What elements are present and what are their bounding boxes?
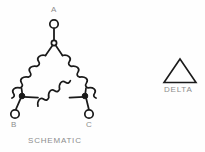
coil-bc-turns <box>38 81 71 107</box>
terminal-c-circle <box>85 110 93 118</box>
delta-connection-figure: A B C SCHEMATIC DELTA <box>0 0 205 152</box>
schematic-caption: SCHEMATIC <box>28 137 82 145</box>
coil-bc-lead-left <box>24 97 39 98</box>
terminal-label-b: B <box>11 121 17 129</box>
delta-triangle-icon <box>164 59 196 83</box>
coil-bc-lead-right <box>70 97 85 98</box>
delta-symbol-group <box>164 59 196 83</box>
lead-terminal-c <box>86 98 89 110</box>
coil-ac-lead-top <box>56 45 63 55</box>
coil-ac <box>56 45 96 98</box>
coil-ac-turns <box>63 55 97 98</box>
coil-ab-turns <box>12 55 46 98</box>
schematic-group <box>11 20 96 118</box>
terminal-a-circle <box>50 20 58 28</box>
coil-ab-lead-top <box>46 45 53 55</box>
schematic-drawing <box>0 0 205 152</box>
coil-ab <box>12 45 53 98</box>
terminal-label-a: A <box>51 6 57 14</box>
delta-caption: DELTA <box>164 86 193 94</box>
coil-bc <box>24 81 85 107</box>
lead-terminal-b <box>16 98 21 110</box>
terminal-b-circle <box>11 110 19 118</box>
terminal-label-c: C <box>86 121 92 129</box>
